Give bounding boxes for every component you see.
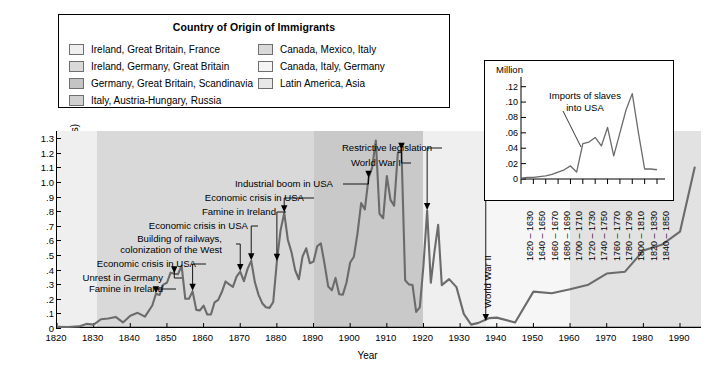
y-axis-labels: 0.1.2.3.4.5.6.7.8.91.01.11.21.3	[28, 131, 54, 328]
y-tick-label: .5	[46, 250, 54, 261]
legend-item-label: Italy, Austria-Hungary, Russia	[91, 95, 221, 106]
legend-item: Canada, Italy, Germany	[258, 58, 449, 75]
y-tick-mark	[56, 182, 61, 183]
annotation-label: Unrest in Germany	[82, 272, 163, 283]
inset-x-tick-label: 1840 – 1850	[661, 211, 671, 261]
y-tick-mark	[56, 153, 61, 154]
y-tick-label: .6	[46, 235, 54, 246]
x-tick-label: 1960	[558, 332, 579, 343]
x-tick-label: 1910	[375, 332, 396, 343]
legend-title: Country of Origin of Immigrants	[59, 21, 449, 33]
y-tick-mark	[56, 284, 61, 285]
annotation-label: Famine in Ireland	[202, 206, 276, 217]
annotation-label: Industrial boom in USA	[235, 178, 333, 189]
legend-swatch	[69, 61, 84, 72]
y-tick-mark	[56, 328, 61, 329]
legend-item-label: Canada, Mexico, Italy	[280, 44, 376, 55]
x-tick-label: 1860	[192, 332, 213, 343]
y-tick-mark	[56, 211, 61, 212]
x-tick-label: 1900	[339, 332, 360, 343]
x-tick-label: 1820	[45, 332, 66, 343]
legend-item-label: Canada, Italy, Germany	[280, 61, 385, 72]
y-tick-mark	[56, 167, 61, 168]
y-tick-mark	[56, 255, 61, 256]
legend-swatch	[258, 44, 273, 55]
annotation-label: Famine in Ireland	[89, 283, 163, 294]
inset-x-tick-label: 1700 – 1710	[574, 211, 584, 261]
annotation-label: Economic crisis in USA	[205, 192, 304, 203]
legend-item: Germany, Great Britain, Scandinavia	[69, 75, 254, 92]
y-tick-mark	[56, 270, 61, 271]
annotation-label: Building of railways,	[137, 233, 222, 244]
legend-swatch	[69, 78, 84, 89]
x-tick-label: 1930	[449, 332, 470, 343]
y-tick-label: .9	[46, 191, 54, 202]
y-tick-label: .8	[46, 206, 54, 217]
inset-x-tick-label: 1780 – 1790	[624, 211, 634, 261]
y-tick-label: 1.1	[41, 162, 54, 173]
y-tick-mark	[56, 299, 61, 300]
y-tick-mark	[56, 138, 61, 139]
x-tick-label: 1830	[82, 332, 103, 343]
y-tick-label: .4	[46, 264, 54, 275]
legend-columns: Ireland, Great Britain, FranceIreland, G…	[59, 41, 449, 109]
x-axis-title: Year	[0, 350, 711, 361]
legend-swatch	[258, 61, 273, 72]
inset-x-tick-label: 1760 – 1770	[612, 211, 622, 261]
inset-x-tick-label: 1740 – 1750	[599, 211, 609, 261]
x-tick-label: 1880	[265, 332, 286, 343]
legend-column-left: Ireland, Great Britain, FranceIreland, G…	[59, 41, 254, 109]
annotation-label: World War I	[351, 157, 401, 168]
legend-item: Ireland, Great Britain, France	[69, 41, 254, 58]
inset-x-tick-label: 1640 – 1650	[537, 211, 547, 261]
legend-column-right: Canada, Mexico, ItalyCanada, Italy, Germ…	[254, 41, 449, 109]
x-axis-labels: 1820183018401850186018701880189019001910…	[0, 332, 711, 346]
x-tick-label: 1940	[485, 332, 506, 343]
annotation-label: colonization of the West	[120, 244, 222, 255]
annotation-label: Economic crisis in USA	[149, 220, 248, 231]
legend-item-label: Ireland, Germany, Great Britain	[91, 61, 229, 72]
x-tick-label: 1990	[668, 332, 689, 343]
legend-swatch	[69, 95, 84, 106]
y-tick-mark	[56, 240, 61, 241]
legend-item-label: Ireland, Great Britain, France	[91, 44, 220, 55]
annotation-label: Restrictive legislation	[342, 142, 432, 153]
y-tick-label: .1	[46, 308, 54, 319]
slave-imports-line-chart	[485, 61, 673, 200]
inset-x-tick-label: 1800 – 1810	[636, 211, 646, 261]
legend-item: Italy, Austria-Hungary, Russia	[69, 92, 254, 109]
legend-item: Latin America, Asia	[258, 75, 449, 92]
legend-swatch	[69, 44, 84, 55]
legend-item: Canada, Mexico, Italy	[258, 41, 449, 58]
inset-x-tick-label: 1660 – 1670	[550, 211, 560, 261]
inset-x-tick-label: 1820 – 1830	[649, 211, 659, 261]
y-tick-mark	[56, 226, 61, 227]
legend-box: Country of Origin of Immigrants Ireland,…	[58, 14, 450, 108]
x-tick-label: 1850	[155, 332, 176, 343]
x-tick-label: 1970	[595, 332, 616, 343]
y-tick-label: 1.2	[41, 147, 54, 158]
legend-item-label: Germany, Great Britain, Scandinavia	[91, 78, 253, 89]
y-tick-mark	[56, 313, 61, 314]
x-tick-label: 1920	[412, 332, 433, 343]
chart-figure: Country of Origin of Immigrants Ireland,…	[0, 0, 711, 377]
legend-item: Ireland, Germany, Great Britain	[69, 58, 254, 75]
inset-x-tick-label: 1720 – 1730	[587, 211, 597, 261]
x-tick-label: 1950	[522, 332, 543, 343]
annotation-label: Economic crisis in USA	[97, 258, 196, 269]
y-tick-label: .3	[46, 279, 54, 290]
y-tick-mark	[56, 197, 61, 198]
legend-swatch	[258, 78, 273, 89]
inset-x-tick-label: 1680 – 1690	[562, 211, 572, 261]
legend-item-label: Latin America, Asia	[280, 78, 365, 89]
y-tick-label: 1.0	[41, 177, 54, 188]
x-tick-label: 1890	[302, 332, 323, 343]
x-tick-label: 1870	[229, 332, 250, 343]
inset-x-tick-label: 1620 – 1630	[525, 211, 535, 261]
inset-chart-box: Million Imports of slaves into USA 0.02.…	[484, 60, 674, 201]
y-tick-label: .2	[46, 293, 54, 304]
annotation-label-world-war-2: World War II	[482, 256, 493, 309]
y-tick-label: .7	[46, 220, 54, 231]
y-tick-label: 1.3	[41, 133, 54, 144]
x-tick-label: 1840	[119, 332, 140, 343]
